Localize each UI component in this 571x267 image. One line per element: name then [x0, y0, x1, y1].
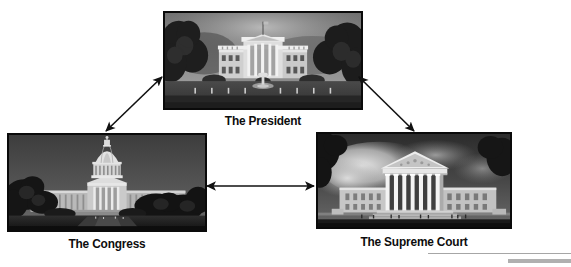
white-house-illustration: [165, 13, 361, 108]
arrow-congress-president: [106, 77, 162, 131]
us-capitol-illustration: [9, 135, 205, 230]
arrow-president-supreme: [359, 77, 414, 131]
decorative-thick-rule: [508, 259, 571, 263]
caption-congress: The Congress: [19, 236, 195, 251]
caption-president: The President: [175, 113, 351, 128]
photo-white-house: [163, 11, 363, 110]
photo-us-capitol: [7, 133, 207, 232]
photo-supreme-court: [316, 132, 512, 229]
supreme-court-illustration: [318, 134, 510, 227]
caption-supreme-court: The Supreme Court: [328, 234, 500, 249]
diagram-canvas: The President: [0, 0, 571, 267]
decorative-thin-rule: [428, 253, 571, 254]
